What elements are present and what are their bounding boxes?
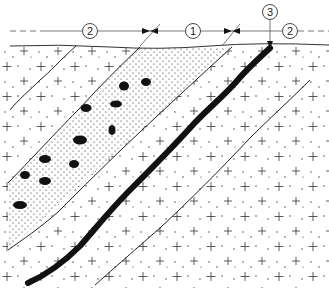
geologic-section-diagram: 2 1 3 2 — [0, 0, 329, 288]
svg-text:2: 2 — [287, 25, 293, 37]
label-zone-1: 1 — [186, 24, 201, 39]
label-zone-2-left: 2 — [83, 24, 98, 39]
svg-text:2: 2 — [87, 25, 93, 37]
label-vein-3: 3 — [263, 5, 278, 20]
label-zone-2-right: 2 — [283, 24, 298, 39]
svg-text:3: 3 — [267, 6, 273, 18]
svg-text:1: 1 — [190, 25, 196, 37]
host-rock-fill — [0, 44, 329, 288]
